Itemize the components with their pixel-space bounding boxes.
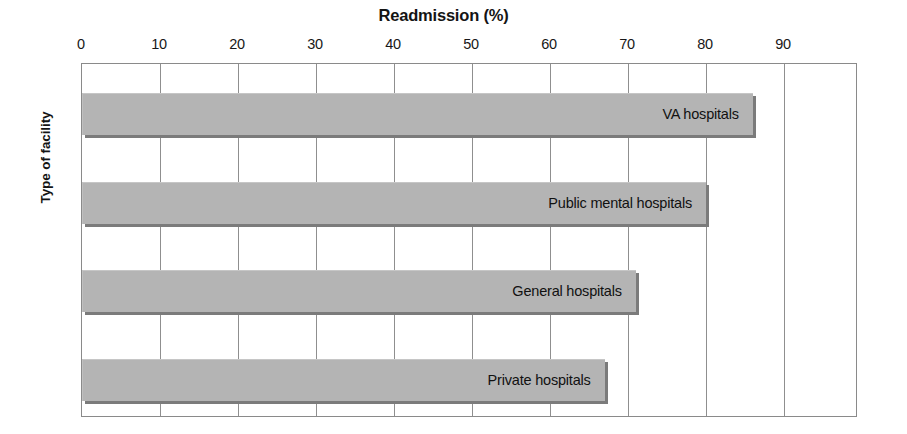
x-tick-label-70: 70 [619,36,635,52]
bar-label: Private hospitals [82,359,605,401]
bar-shadow-bottom [85,312,639,315]
x-tick-label-40: 40 [385,36,401,52]
chart-title: Readmission (%) [0,6,897,25]
bar-label: Public mental hospitals [82,182,706,224]
y-axis-label: Type of facility [38,78,53,238]
bar-1[interactable]: VA hospitals [82,93,753,135]
bar-2[interactable]: Public mental hospitals [82,182,706,224]
x-tick-label-60: 60 [541,36,557,52]
x-tick-label-30: 30 [307,36,323,52]
bar-label: General hospitals [82,270,636,312]
x-tick-label-0: 0 [77,36,85,52]
gridline-90 [784,64,785,416]
x-tick-label-90: 90 [775,36,791,52]
bar-shadow-right [636,273,639,315]
plot-area: VA hospitalsPublic mental hospitalsGener… [81,63,857,417]
bar-chart: Readmission (%) Type of facility 0102030… [0,0,907,434]
bar-label: VA hospitals [82,93,753,135]
x-tick-label-20: 20 [229,36,245,52]
bar-shadow-bottom [85,224,709,227]
x-tick-label-10: 10 [151,36,167,52]
x-tick-label-80: 80 [697,36,713,52]
x-tick-label-50: 50 [463,36,479,52]
bar-shadow-bottom [85,135,756,138]
bar-shadow-right [605,362,608,404]
bar-3[interactable]: General hospitals [82,270,636,312]
bar-4[interactable]: Private hospitals [82,359,605,401]
bar-shadow-right [753,96,756,138]
bar-shadow-bottom [85,401,608,404]
bar-shadow-right [706,185,709,227]
